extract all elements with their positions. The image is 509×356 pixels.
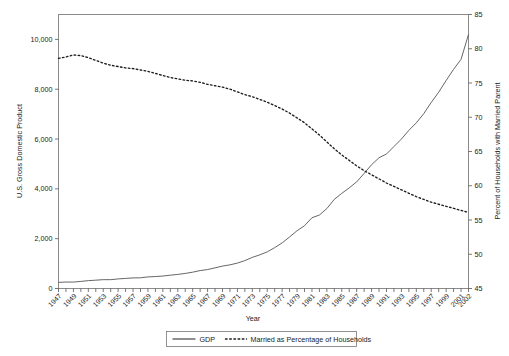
x-tick-label: 1985 [330,292,346,308]
x-axis-title: Year [246,314,261,323]
legend-label-gdp: GDP [200,335,216,344]
legend-label-married: Married as Percentage of Households [251,335,372,344]
right-tick-label: 80 [475,44,483,53]
chart-legend: GDPMarried as Percentage of Households [167,332,372,347]
left-tick-label: 8,000 [35,85,53,94]
x-tick-label: 1997 [419,292,435,308]
right-tick-label: 55 [475,216,483,225]
x-tick-label: 1957 [121,292,137,308]
right-tick-label: 60 [475,181,483,190]
x-tick-label: 1999 [434,292,450,308]
x-tick-label: 1955 [106,292,122,308]
right-tick-label: 70 [475,113,483,122]
x-tick-label: 1953 [91,292,107,308]
right-tick-label: 65 [475,147,483,156]
series-line-married [59,55,469,213]
x-tick-label: 1983 [315,292,331,308]
right-axis-title: Percent of Households with Married Paren… [493,82,502,219]
x-tick-label: 1995 [405,292,421,308]
x-tick-label: 1975 [255,292,271,308]
left-axis-title: U.S. Gross Domestic Product [15,104,24,198]
right-tick-label: 45 [475,284,483,293]
x-tick-label: 1981 [300,292,316,308]
x-tick-label: 1973 [241,292,257,308]
right-tick-label: 75 [475,79,483,88]
x-tick-label: 1987 [345,292,361,308]
left-tick-label: 0 [49,284,53,293]
series-layer [59,34,469,282]
x-tick-label: 1951 [77,292,93,308]
series-line-gdp [59,34,469,282]
x-tick-label: 1963 [166,292,182,308]
right-tick-label: 85 [475,10,483,19]
x-tick-label: 1959 [136,292,152,308]
x-axis-ticks: 1947194919511953195519571959196119631965… [47,289,473,309]
x-tick-label: 1991 [375,292,391,308]
x-tick-label: 1949 [62,292,78,308]
x-tick-label: 1961 [151,292,167,308]
left-tick-label: 2,000 [35,234,53,243]
chart-container: 02,0004,0006,0008,00010,000 455055606570… [0,0,509,356]
plot-frame [59,15,469,289]
x-tick-label: 1977 [270,292,286,308]
right-tick-label: 50 [475,250,483,259]
x-tick-label: 1967 [196,292,212,308]
x-tick-label: 1989 [360,292,376,308]
left-tick-label: 4,000 [35,184,53,193]
x-tick-label: 1947 [47,292,63,308]
left-tick-label: 10,000 [31,35,53,44]
left-tick-label: 6,000 [35,135,53,144]
dual-axis-line-chart: 02,0004,0006,0008,00010,000 455055606570… [0,0,509,356]
x-tick-label: 1979 [285,292,301,308]
x-tick-label: 1993 [390,292,406,308]
left-axis-ticks: 02,0004,0006,0008,00010,000 [31,35,59,293]
x-tick-label: 1965 [181,292,197,308]
x-tick-label: 1969 [211,292,227,308]
x-tick-label: 1971 [226,292,242,308]
right-axis-ticks: 455055606570758085 [469,10,483,293]
